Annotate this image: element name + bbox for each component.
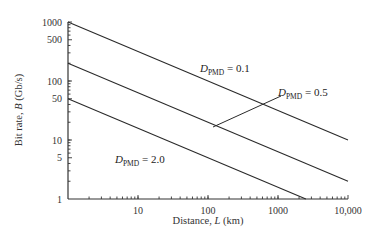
y-tick-label: 10 bbox=[52, 135, 62, 146]
x-axis-title: Distance, L (km) bbox=[173, 215, 244, 227]
x-tick-label: 10 bbox=[133, 205, 143, 216]
y-axis-title: Bit rate, B (Gb/s) bbox=[13, 73, 25, 146]
x-tick-label: 1000 bbox=[268, 205, 288, 216]
curve-labels: DPMD = 0.1DPMD = 0.5DPMD = 2.0 bbox=[114, 62, 328, 168]
x-tick-label: 10,000 bbox=[334, 205, 362, 216]
y-tick-label: 50 bbox=[52, 93, 62, 104]
label-leader-line bbox=[213, 96, 281, 127]
y-tick-label: 100 bbox=[47, 76, 62, 87]
curves bbox=[68, 22, 348, 199]
chart: 10100100010,0001510501005001000 DPMD = 0… bbox=[0, 0, 385, 252]
series-label: DPMD = 0.1 bbox=[199, 62, 250, 77]
series-label: DPMD = 0.5 bbox=[277, 86, 328, 101]
y-tick-label: 5 bbox=[57, 152, 62, 163]
axes: 10100100010,0001510501005001000 bbox=[42, 17, 362, 217]
y-tick-label: 1 bbox=[57, 194, 62, 205]
y-tick-label: 1000 bbox=[42, 17, 62, 28]
series-label: DPMD = 2.0 bbox=[114, 153, 165, 168]
y-tick-label: 500 bbox=[47, 34, 62, 45]
